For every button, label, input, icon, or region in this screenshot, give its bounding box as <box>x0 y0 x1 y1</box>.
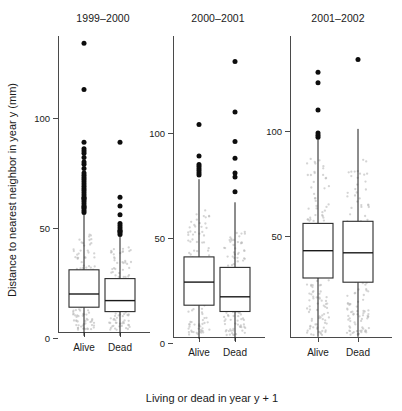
jitter-point <box>322 165 324 167</box>
jitter-point <box>241 330 243 332</box>
jitter-point <box>113 253 115 255</box>
jitter-point <box>240 324 242 326</box>
jitter-point <box>236 257 238 259</box>
jitter-point <box>362 310 364 312</box>
jitter-point <box>318 293 320 295</box>
jitter-point <box>362 314 364 316</box>
jitter-point <box>108 322 110 324</box>
jitter-point <box>310 174 312 176</box>
jitter-point <box>347 303 349 305</box>
jitter-point <box>315 205 317 207</box>
jitter-point <box>115 329 117 331</box>
jitter-point <box>196 241 198 243</box>
jitter-point <box>192 233 194 235</box>
y-tick-label: 100 <box>149 128 165 139</box>
jitter-point <box>195 213 197 215</box>
jitter-point <box>321 211 323 213</box>
jitter-point <box>205 216 207 218</box>
jitter-point <box>223 316 225 318</box>
jitter-point <box>193 224 195 226</box>
jitter-point <box>228 239 230 241</box>
jitter-point <box>366 317 368 319</box>
jitter-point <box>361 326 363 328</box>
jitter-point <box>232 244 234 246</box>
jitter-point <box>306 283 308 285</box>
jitter-point <box>112 325 114 327</box>
outlier-point <box>316 108 321 113</box>
jitter-point <box>346 332 348 334</box>
jitter-point <box>225 330 227 332</box>
jitter-point <box>240 313 242 315</box>
outlier-point <box>82 160 87 165</box>
jitter-point <box>366 173 368 175</box>
jitter-point <box>362 312 364 314</box>
jitter-point <box>189 226 191 228</box>
jitter-point <box>201 308 203 310</box>
jitter-point <box>319 284 321 286</box>
jitter-point <box>188 252 190 254</box>
jitter-point <box>326 302 328 304</box>
jitter-point <box>126 314 128 316</box>
jitter-point <box>349 317 351 319</box>
jitter-point <box>188 324 190 326</box>
jitter-point <box>347 192 349 194</box>
jitter-point <box>128 250 130 252</box>
jitter-point <box>188 331 190 333</box>
jitter-point <box>75 324 77 326</box>
y-tick-label: 50 <box>39 223 50 234</box>
jitter-point <box>322 167 324 169</box>
jitter-point <box>314 172 316 174</box>
jitter-point <box>112 319 114 321</box>
jitter-point <box>79 309 81 311</box>
jitter-point <box>91 319 93 321</box>
jitter-point <box>127 328 129 330</box>
jitter-point <box>367 315 369 317</box>
jitter-point <box>114 274 116 276</box>
outlier-point <box>118 212 123 217</box>
jitter-point <box>193 323 195 325</box>
jitter-point <box>113 248 115 250</box>
jitter-point <box>311 318 313 320</box>
outlier-point <box>118 204 123 209</box>
jitter-point <box>85 267 87 269</box>
jitter-point <box>191 238 193 240</box>
jitter-point <box>346 195 348 197</box>
outlier-point <box>82 140 87 145</box>
category-label-alive: Alive <box>307 347 329 358</box>
jitter-point <box>73 319 75 321</box>
jitter-point <box>128 326 130 328</box>
jitter-point <box>110 317 112 319</box>
jitter-point <box>122 248 124 250</box>
jitter-point <box>128 267 130 269</box>
jitter-point <box>201 330 203 332</box>
category-label-dead: Dead <box>346 347 370 358</box>
jitter-point <box>365 160 367 162</box>
jitter-point <box>121 322 123 324</box>
jitter-point <box>362 159 364 161</box>
jitter-point <box>187 231 189 233</box>
jitter-point <box>77 327 79 329</box>
jitter-point <box>307 174 309 176</box>
jitter-point <box>306 332 308 334</box>
jitter-point <box>244 233 246 235</box>
jitter-point <box>205 317 207 319</box>
jitter-point <box>90 267 92 269</box>
category-label-alive: Alive <box>188 347 210 358</box>
jitter-point <box>346 307 348 309</box>
jitter-point <box>308 292 310 294</box>
jitter-point <box>190 221 192 223</box>
jitter-point <box>94 265 96 267</box>
category-label-alive: Alive <box>73 342 95 353</box>
jitter-point <box>189 241 191 243</box>
jitter-point <box>84 320 86 322</box>
jitter-point <box>88 235 90 237</box>
outlier-point <box>197 154 202 159</box>
boxplot-figure: 1999–2000050100AliveDead2000–2001050100A… <box>0 0 402 411</box>
jitter-point <box>366 219 368 221</box>
jitter-point <box>327 312 329 314</box>
jitter-point <box>348 325 350 327</box>
jitter-point <box>306 162 308 164</box>
jitter-point <box>321 330 323 332</box>
outlier-point <box>233 59 238 64</box>
jitter-point <box>201 311 203 313</box>
